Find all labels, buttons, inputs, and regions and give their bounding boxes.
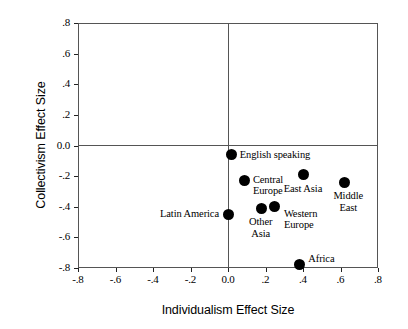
scatter-plot-figure: .8.6.4.20.0-.2-.4-.6-.8 -.8-.6-.4-.20.0.… (0, 0, 408, 329)
y-axis-tick (74, 207, 78, 208)
x-axis-tick (191, 268, 192, 272)
data-point-label: Middle East (308, 190, 388, 213)
x-axis-title: Individualism Effect Size (78, 303, 378, 317)
x-axis-tick-label: .2 (251, 274, 281, 285)
y-axis-tick (74, 54, 78, 55)
x-axis-tick-label: -.6 (101, 274, 131, 285)
data-point-label: Latin America (160, 208, 219, 220)
y-axis-title: Collectivism Effect Size (34, 23, 48, 268)
x-axis-tick-label: .8 (363, 274, 393, 285)
data-point-label: English speaking (240, 149, 310, 161)
data-point-label: Western Europe (284, 208, 317, 231)
x-axis-tick (341, 268, 342, 272)
y-axis-tick (74, 146, 78, 147)
x-axis-tick-label: -.2 (176, 274, 206, 285)
x-axis-tick-label: .6 (326, 274, 356, 285)
data-point-label: Africa (308, 253, 334, 265)
x-axis-tick (116, 268, 117, 272)
y-axis-tick (74, 237, 78, 238)
y-axis-tick (74, 115, 78, 116)
x-axis-tick-label: -.8 (63, 274, 93, 285)
x-axis-tick (266, 268, 267, 272)
y-axis-tick (74, 23, 78, 24)
x-axis-tick-label: .4 (288, 274, 318, 285)
x-axis-tick (378, 268, 379, 272)
x-axis-tick-label: -.4 (138, 274, 168, 285)
data-point (339, 177, 350, 188)
x-axis-tick (228, 268, 229, 272)
x-axis-tick-label: 0.0 (213, 274, 243, 285)
x-axis-tick (153, 268, 154, 272)
data-point (256, 203, 267, 214)
x-axis-tick (78, 268, 79, 272)
y-axis-tick (74, 176, 78, 177)
y-axis-tick (74, 84, 78, 85)
data-point (298, 169, 309, 180)
